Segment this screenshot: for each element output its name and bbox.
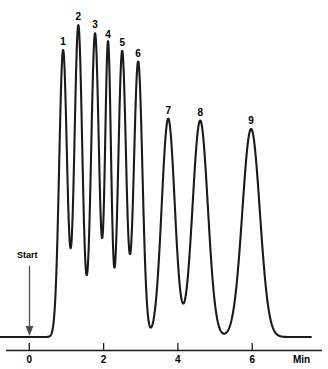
chromatogram-trace-path	[0, 25, 311, 337]
x-axis-tick-label-0: 0	[20, 354, 38, 365]
x-axis	[6, 343, 322, 351]
chromatogram-plot	[0, 0, 328, 369]
peak-label-3: 3	[88, 19, 102, 30]
chromatogram-figure: 123456789 0246 Start Min	[0, 0, 328, 369]
peak-label-9: 9	[244, 115, 258, 126]
start-label: Start	[17, 250, 38, 261]
peak-label-2: 2	[71, 11, 85, 22]
peak-label-6: 6	[131, 48, 145, 59]
x-axis-tick-label-6: 6	[243, 354, 261, 365]
x-axis-ticks	[29, 343, 252, 350]
x-axis-tick-label-2: 2	[95, 354, 113, 365]
x-axis-unit-label: Min	[293, 354, 310, 365]
chromatogram-trace-group	[0, 25, 311, 337]
x-axis-tick-label-4: 4	[169, 354, 187, 365]
peak-label-1: 1	[56, 36, 70, 47]
peak-label-5: 5	[115, 37, 129, 48]
peak-label-4: 4	[101, 29, 115, 40]
start-arrow-icon	[26, 266, 34, 336]
peak-label-8: 8	[193, 107, 207, 118]
start-arrow-head	[26, 326, 34, 336]
peak-label-7: 7	[161, 105, 175, 116]
